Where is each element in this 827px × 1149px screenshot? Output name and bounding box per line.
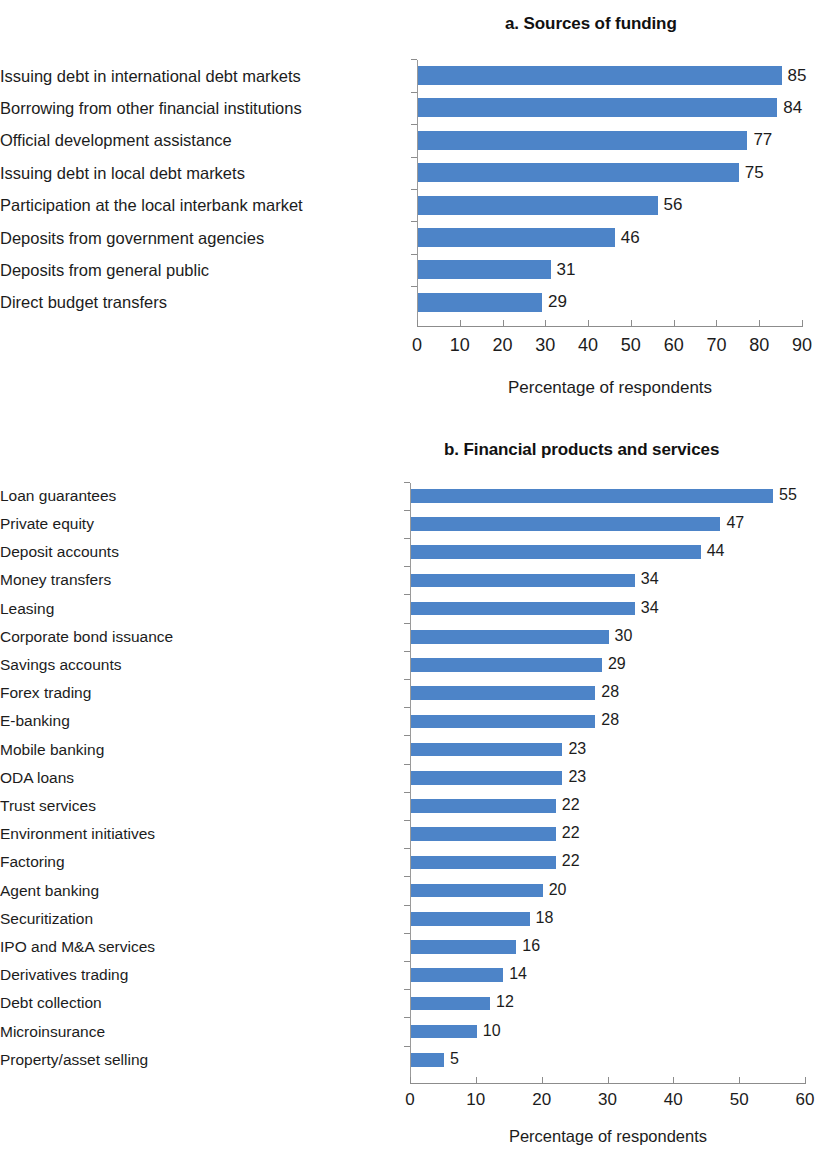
bar-value-label: 12	[496, 994, 514, 1010]
bar-value-label: 14	[509, 966, 527, 982]
x-axis-tick-label: 50	[719, 1091, 759, 1108]
x-axis-tick	[588, 320, 589, 326]
x-axis-line	[410, 1083, 806, 1084]
y-axis-tick	[411, 92, 417, 93]
x-axis-tick	[503, 320, 504, 326]
x-axis-tick	[674, 320, 675, 326]
x-axis-tick-label: 10	[440, 336, 480, 354]
x-axis-title: Percentage of respondents	[460, 378, 760, 398]
bar-value-label: 30	[615, 628, 633, 644]
bar	[411, 997, 490, 1011]
bar-value-label: 28	[601, 712, 619, 728]
y-axis-tick	[404, 905, 410, 906]
bar-value-label: 31	[557, 261, 576, 278]
x-axis-tick	[739, 1077, 740, 1083]
bar	[418, 228, 615, 247]
x-axis-tick-label: 40	[653, 1091, 693, 1108]
x-axis-tick	[805, 1077, 806, 1083]
y-axis-tick	[404, 961, 410, 962]
x-axis-tick	[476, 1077, 477, 1083]
bar	[411, 574, 635, 588]
y-axis-tick	[404, 707, 410, 708]
x-axis-tick	[545, 320, 546, 326]
x-axis-tick-label: 40	[568, 336, 608, 354]
y-axis-tick	[411, 221, 417, 222]
x-axis-title: Percentage of respondents	[458, 1127, 758, 1146]
y-axis-tick	[411, 59, 417, 60]
y-axis-tick	[404, 848, 410, 849]
y-axis-tick	[411, 157, 417, 158]
bar	[411, 968, 503, 982]
bar	[418, 293, 542, 312]
y-axis-tick	[404, 538, 410, 539]
x-axis-tick-label: 20	[522, 1091, 562, 1108]
bar	[411, 602, 635, 616]
bar	[411, 517, 720, 531]
bar	[411, 884, 543, 898]
y-axis-tick	[411, 124, 417, 125]
y-axis-tick	[411, 254, 417, 255]
y-axis-tick	[404, 876, 410, 877]
x-axis-tick	[608, 1077, 609, 1083]
bar	[418, 66, 782, 85]
panel-a-title: a. Sources of funding	[505, 14, 677, 34]
y-axis-tick	[411, 286, 417, 287]
bar	[411, 827, 556, 841]
bar-value-label: 77	[753, 131, 772, 148]
bar	[411, 799, 556, 813]
chart-panel-b: b. Financial products and services Loan …	[0, 425, 827, 1149]
bar-value-label: 47	[726, 515, 744, 531]
x-axis-tick-label: 50	[611, 336, 651, 354]
x-axis-tick-label: 0	[397, 336, 437, 354]
x-axis-tick-label: 60	[654, 336, 694, 354]
bar-value-label: 23	[568, 741, 586, 757]
bar-value-label: 29	[608, 656, 626, 672]
y-axis-tick	[404, 594, 410, 595]
y-axis-tick	[404, 510, 410, 511]
bar	[411, 771, 562, 785]
bar	[418, 98, 777, 117]
bar	[411, 545, 701, 559]
y-axis-tick	[411, 189, 417, 190]
panel-b-title: b. Financial products and services	[444, 440, 719, 460]
bar-value-label: 22	[562, 797, 580, 813]
y-axis-tick	[404, 933, 410, 934]
bar	[411, 686, 595, 700]
bar	[418, 163, 739, 182]
x-axis-tick	[417, 320, 418, 326]
bar	[418, 131, 747, 150]
bar-value-label: 28	[601, 684, 619, 700]
y-axis-tick	[404, 566, 410, 567]
x-axis-tick	[460, 320, 461, 326]
bar-value-label: 5	[450, 1051, 459, 1067]
bar-value-label: 23	[568, 769, 586, 785]
bar	[418, 196, 658, 215]
x-axis-tick-label: 90	[782, 336, 822, 354]
bar	[411, 940, 516, 954]
y-axis-tick	[404, 989, 410, 990]
bar	[411, 489, 773, 503]
y-axis-tick	[404, 623, 410, 624]
bar	[411, 743, 562, 757]
bar	[418, 260, 551, 279]
bar-value-label: 56	[664, 196, 683, 213]
y-axis-tick	[404, 679, 410, 680]
y-axis-tick	[404, 1046, 410, 1047]
bar-value-label: 75	[745, 164, 764, 181]
y-axis-tick	[404, 482, 410, 483]
bar	[411, 856, 556, 870]
bar	[411, 1025, 477, 1039]
bar	[411, 658, 602, 672]
bar-value-label: 46	[621, 229, 640, 246]
y-axis-tick	[404, 735, 410, 736]
x-axis-tick-label: 10	[456, 1091, 496, 1108]
bar	[411, 715, 595, 729]
x-axis-tick	[542, 1077, 543, 1083]
bar-value-label: 34	[641, 571, 659, 587]
y-axis-tick	[404, 820, 410, 821]
x-axis-tick-label: 80	[739, 336, 779, 354]
bar-value-label: 18	[536, 910, 554, 926]
bar-value-label: 34	[641, 600, 659, 616]
bar-value-label: 16	[522, 938, 540, 954]
y-axis-tick	[404, 792, 410, 793]
